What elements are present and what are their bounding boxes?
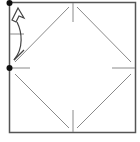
dot-left-midpoint [7, 65, 13, 71]
origami-diagram [0, 0, 140, 142]
dot-top-left-corner [7, 0, 13, 6]
